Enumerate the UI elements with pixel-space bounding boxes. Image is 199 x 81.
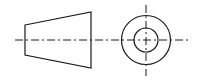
centerlines (15, 5, 191, 76)
projection-symbol-diagram (0, 0, 199, 81)
